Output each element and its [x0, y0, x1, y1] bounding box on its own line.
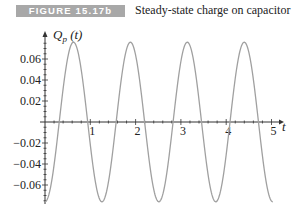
svg-text:5: 5: [271, 124, 277, 138]
svg-text:−0.04: −0.04: [13, 157, 41, 171]
svg-text:0.06: 0.06: [20, 52, 41, 66]
svg-text:0.02: 0.02: [20, 94, 41, 108]
svg-text:−0.02: −0.02: [13, 136, 41, 150]
chart: 0.060.040.02−0.02−0.04−0.06 12345 Qp (t)…: [0, 0, 294, 217]
svg-text:2: 2: [135, 124, 141, 138]
axes: [40, 31, 284, 204]
svg-text:1: 1: [89, 124, 95, 138]
x-axis-label: t: [282, 119, 286, 134]
svg-text:0.04: 0.04: [20, 73, 41, 87]
svg-text:−0.06: −0.06: [13, 178, 41, 192]
svg-text:3: 3: [180, 124, 186, 138]
y-axis-label: Qp (t): [53, 27, 82, 44]
